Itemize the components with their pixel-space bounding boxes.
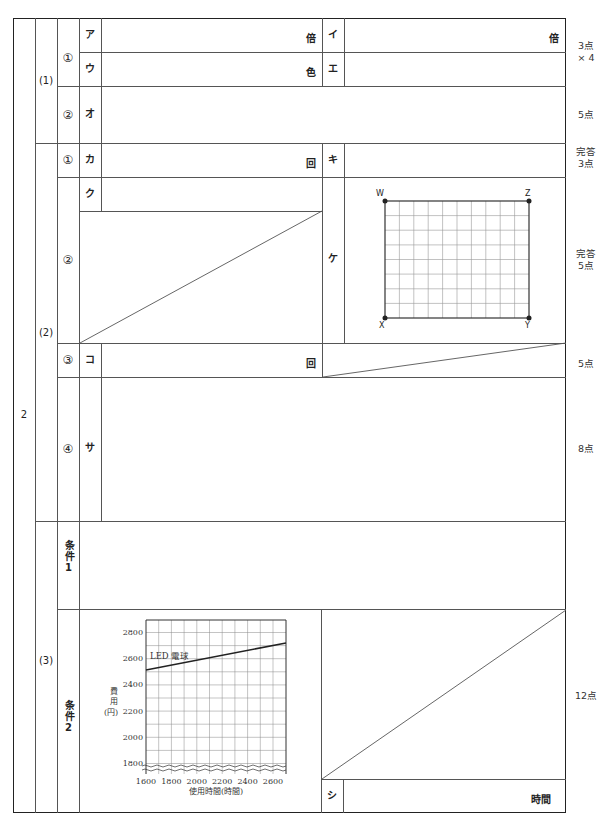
svg-text:2200: 2200 [123,707,143,716]
sub-2-3-label: ③ [57,354,79,366]
svg-text:2800: 2800 [123,628,143,637]
kana-shi: シ [321,791,343,801]
kana-ko: コ [79,355,101,365]
answer-i[interactable] [345,19,565,52]
answer-ko[interactable] [102,344,322,377]
kana-sa: サ [79,443,101,453]
corner-x: X [379,322,384,330]
svg-text:2200: 2200 [212,777,232,786]
points-1: 3点× 4 [568,40,604,64]
points-4: 完答5点 [568,248,604,272]
sub-2-1-label: ① [57,154,79,166]
sub-2-2-label: ② [57,254,79,266]
answer-ki[interactable] [345,144,565,177]
answer-ku[interactable] [102,178,322,211]
section-2-label: (2) [35,328,57,338]
unit-ka: 回 [306,155,316,170]
svg-text:1600: 1600 [136,777,156,786]
svg-text:2600: 2600 [123,654,143,663]
svg-text:用: 用 [110,697,118,706]
answer-condition-1[interactable] [80,522,565,609]
svg-text:2600: 2600 [263,777,283,786]
kana-i: イ [322,30,344,40]
svg-text:費: 費 [110,686,118,696]
answer-o[interactable] [102,87,565,143]
svg-text:使用時間(時間): 使用時間(時間) [189,786,243,796]
drawing-grid[interactable] [380,188,540,338]
unit-ko: 回 [306,355,316,370]
points-6: 8点 [568,443,604,455]
question-number: 2 [13,410,35,420]
svg-text:2400: 2400 [123,680,143,689]
condition-1-label: 条件1 [62,540,76,574]
points-3: 完答3点 [568,146,604,170]
kana-e: エ [322,64,344,74]
answer-ka[interactable] [102,144,322,177]
section-3-label: (3) [35,656,57,666]
unit-i: 倍 [549,30,559,45]
corner-w: W [376,190,384,198]
svg-text:2000: 2000 [123,733,143,742]
kana-a: ア [79,30,101,40]
answer-e[interactable] [345,53,565,86]
cost-chart: LED 電球 28002600 24002200 20001800 160018… [90,612,320,812]
kana-ki: キ [322,155,344,165]
answer-u[interactable] [102,53,322,86]
kana-o: オ [79,109,101,119]
sub-2-4-label: ④ [57,443,79,455]
svg-text:1800: 1800 [161,777,181,786]
points-2: 5点 [568,109,604,121]
svg-text:2400: 2400 [237,777,257,786]
svg-text:1800: 1800 [123,759,143,768]
points-5: 5点 [568,358,604,370]
unit-u: 色 [306,64,316,79]
sub-1-2-label: ② [57,109,79,121]
unit-a: 倍 [306,30,316,45]
answer-sa[interactable] [102,378,565,521]
svg-text:(円): (円) [104,708,118,717]
answer-condition-2[interactable] [322,610,565,779]
svg-text:2000: 2000 [187,777,207,786]
svg-text:LED 電球: LED 電球 [150,651,189,661]
answer-a[interactable] [102,19,322,52]
section-1-label: (1) [35,76,57,86]
condition-2-label: 条件2 [62,700,76,734]
kana-ku: ク [79,189,101,199]
unit-shi: 時間 [531,791,551,806]
kana-ka: カ [79,155,101,165]
corner-z: Z [525,190,530,198]
corner-y: Y [525,322,530,330]
kana-ke: ケ [322,254,344,264]
points-7: 12点 [566,690,606,702]
kana-u: ウ [79,64,101,74]
sub-1-1-label: ① [57,52,79,64]
